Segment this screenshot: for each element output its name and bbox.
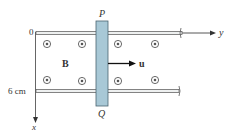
dot-out-of-page-icon <box>114 77 121 84</box>
y-axis-arrowhead-icon <box>210 31 216 36</box>
dot-out-of-page-icon <box>78 40 85 47</box>
arrowhead-icon <box>129 61 136 67</box>
x-axis <box>33 32 38 123</box>
top-rail-position-label: 0 <box>29 27 34 37</box>
field-label: B <box>62 58 69 69</box>
velocity-label: u <box>139 58 145 69</box>
dot-out-of-page-icon <box>151 76 158 83</box>
rail-rod-diagram: P Q B u y x 0 6 cm <box>0 0 239 133</box>
velocity-arrow <box>108 61 136 67</box>
dot-out-of-page-icon <box>78 77 85 84</box>
top-rail <box>36 28 216 38</box>
sliding-rod <box>96 21 108 106</box>
dot-out-of-page-icon <box>43 76 50 83</box>
dot-out-of-page-icon <box>43 40 50 47</box>
x-axis-label: x <box>31 122 36 132</box>
y-axis-label: y <box>218 27 224 38</box>
bottom-rail-position-label: 6 cm <box>8 86 26 96</box>
dot-out-of-page-icon <box>114 40 121 47</box>
rod-top-label: P <box>98 8 105 19</box>
rod-bottom-label: Q <box>98 108 106 119</box>
dot-out-of-page-icon <box>151 40 158 47</box>
